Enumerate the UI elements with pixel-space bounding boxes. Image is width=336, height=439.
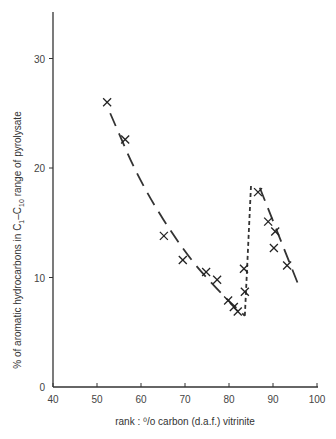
x-marker-icon <box>264 218 272 226</box>
x-marker-icon <box>179 256 187 264</box>
y-axis-label: % of aromatic hydrocarbons in C1–C10 ran… <box>12 111 25 369</box>
y-tick-label: 0 <box>39 382 45 393</box>
x-tick-label: 100 <box>309 394 326 405</box>
x-marker-icon <box>270 244 278 252</box>
y-tick-label: 30 <box>34 54 46 65</box>
chart-canvas: 405060708090100 0102030 rank : ⁰/o carbo… <box>0 0 336 439</box>
x-tick-label: 70 <box>179 394 191 405</box>
x-marker-icon <box>202 268 210 276</box>
x-ticks: 405060708090100 <box>47 383 325 405</box>
trend-line <box>245 186 251 316</box>
trend-lines <box>110 113 298 316</box>
x-marker-icon <box>241 288 249 296</box>
x-tick-label: 90 <box>267 394 279 405</box>
y-tick-label: 20 <box>34 163 46 174</box>
x-marker-icon <box>283 261 291 269</box>
trend-line <box>260 188 298 284</box>
x-marker-icon <box>103 98 111 106</box>
x-tick-label: 80 <box>223 394 235 405</box>
trend-line <box>110 113 245 316</box>
x-marker-icon <box>160 232 168 240</box>
x-marker-icon <box>240 265 248 273</box>
data-markers <box>103 98 291 315</box>
x-marker-icon <box>234 307 242 315</box>
x-tick-label: 40 <box>47 394 59 405</box>
x-tick-label: 60 <box>135 394 147 405</box>
y-tick-label: 10 <box>34 273 46 284</box>
axes <box>53 12 318 387</box>
x-axis-label: rank : ⁰/o carbon (d.a.f.) vitrinite <box>115 416 255 427</box>
x-marker-icon <box>213 276 221 284</box>
y-ticks: 0102030 <box>34 54 53 394</box>
x-tick-label: 50 <box>91 394 103 405</box>
